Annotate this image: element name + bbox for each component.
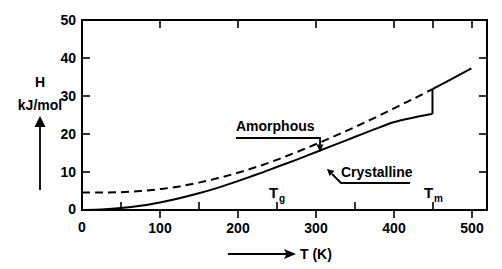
y-tick-label-20: 20 [60,126,76,142]
amorphous-annotation-label: Amorphous [236,118,315,134]
x-tick-label-400: 400 [382,220,406,236]
x-tick-label-200: 200 [226,220,250,236]
y-axis-title-symbol: H [35,74,45,90]
x-axis-title-label: T (K) [300,246,332,262]
x-tick-label-300: 300 [304,220,328,236]
x-tick-labels: 0 100 200 300 400 500 [78,219,484,236]
y-axis-ticks-right [479,58,487,172]
liquid-branch-series [432,68,471,89]
liquid-curve [432,68,471,89]
x-axis-major-ticks [160,210,472,218]
tm-marker: T m [424,184,443,204]
x-tick-label-100: 100 [148,220,172,236]
enthalpy-temperature-chart: 50 40 30 20 10 0 [0,0,502,269]
y-tick-label-40: 40 [60,50,76,66]
tg-marker-base: T [269,184,278,201]
crystalline-annotation-label: Crystalline [341,164,413,180]
tm-marker-base: T [424,184,433,201]
y-tick-label-10: 10 [60,164,76,180]
y-axis-title-units: kJ/mol [18,97,62,113]
x-tick-label-500: 500 [460,220,484,236]
y-tick-labels: 50 40 30 20 10 0 [60,12,76,217]
y-tick-label-30: 30 [60,88,76,104]
y-tick-label-50: 50 [60,12,76,28]
x-tick-label-0: 0 [78,219,86,235]
x-axis-minor-ticks [121,202,433,210]
amorphous-leader-line [236,138,320,147]
x-axis-title-group: T (K) [228,246,332,262]
y-axis-ticks [82,58,90,172]
crystalline-annotation: Crystalline [327,164,413,183]
y-axis-title-group: H kJ/mol [18,74,62,190]
tg-marker: T g [269,184,285,204]
y-axis-up-arrow-icon [35,116,46,127]
tg-marker-subscript: g [279,193,285,204]
x-axis-ticks-top [160,20,472,28]
y-tick-label-0: 0 [68,201,76,217]
chart-figure-root: 50 40 30 20 10 0 [0,0,502,269]
tm-marker-subscript: m [434,193,443,204]
